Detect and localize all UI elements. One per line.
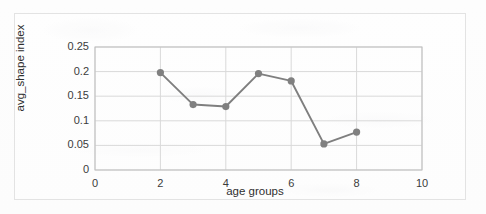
data-series-line: [160, 73, 356, 144]
x-axis-tick-label: 0: [83, 177, 107, 189]
y-axis-tick-label: 0.2: [55, 65, 89, 77]
x-axis-tick-label: 10: [410, 177, 434, 189]
vertical-gridlines: [95, 47, 422, 170]
horizontal-gridlines: [95, 47, 422, 170]
data-point-marker: [190, 101, 197, 108]
x-axis-title: age groups: [195, 185, 315, 197]
x-axis-tick-label: 8: [345, 177, 369, 189]
x-axis-tick-label: 2: [148, 177, 172, 189]
y-axis-tick-label: 0.15: [55, 89, 89, 101]
data-point-marker: [255, 70, 262, 77]
data-point-marker: [353, 129, 360, 136]
y-axis-tick-label: 0.25: [55, 40, 89, 52]
data-point-marker: [288, 77, 295, 84]
data-point-marker: [320, 140, 327, 147]
data-point-markers: [157, 69, 360, 148]
data-point-marker: [157, 69, 164, 76]
y-axis-tick-label: 0.05: [55, 138, 89, 150]
y-axis-tick-label: 0: [55, 163, 89, 175]
data-point-marker: [222, 103, 229, 110]
y-axis-title: avg_shape index: [14, 18, 26, 118]
y-axis-tick-label: 0.1: [55, 114, 89, 126]
plot-area-border: [95, 47, 422, 170]
